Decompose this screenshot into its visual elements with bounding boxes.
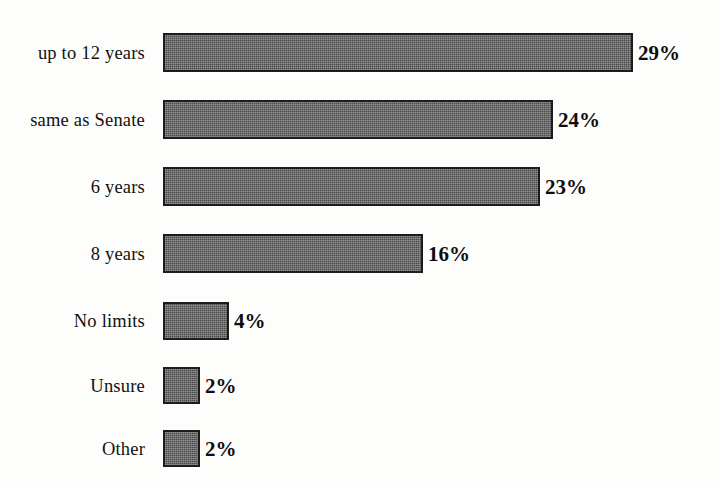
- chart-row: same as Senate 24%: [0, 100, 720, 139]
- row-label: 8 years: [91, 244, 145, 263]
- chart-row: No limits 4%: [0, 302, 720, 340]
- bar-wrapper: 2%: [163, 367, 200, 404]
- bar-wrapper: 29%: [163, 33, 633, 72]
- bar: 29%: [163, 33, 633, 72]
- chart-row: 6 years 23%: [0, 167, 720, 206]
- bar: 16%: [163, 234, 423, 273]
- bar-wrapper: 16%: [163, 234, 423, 273]
- chart-row: up to 12 years 29%: [0, 33, 720, 72]
- row-label: No limits: [74, 312, 145, 331]
- chart-row: Other 2%: [0, 430, 720, 467]
- bar-value-label: 2%: [205, 438, 237, 459]
- row-label: same as Senate: [30, 110, 145, 129]
- bar: 4%: [163, 302, 229, 340]
- bar-value-label: 29%: [638, 42, 680, 63]
- row-label: up to 12 years: [38, 43, 145, 62]
- bar: 2%: [163, 367, 200, 404]
- bar-value-label: 24%: [558, 109, 600, 130]
- chart-row: 8 years 16%: [0, 234, 720, 273]
- bar: 2%: [163, 430, 200, 467]
- bar: 24%: [163, 100, 553, 139]
- row-label: 6 years: [91, 177, 145, 196]
- bar-value-label: 16%: [428, 243, 470, 264]
- bar-chart: up to 12 years 29% same as Senate 24% 6 …: [0, 0, 720, 487]
- bar: 23%: [163, 167, 540, 206]
- bar-wrapper: 4%: [163, 302, 229, 340]
- bar-wrapper: 2%: [163, 430, 200, 467]
- bar-wrapper: 24%: [163, 100, 553, 139]
- bar-value-label: 2%: [205, 375, 237, 396]
- bar-value-label: 23%: [545, 176, 587, 197]
- bar-wrapper: 23%: [163, 167, 540, 206]
- bar-value-label: 4%: [234, 311, 266, 332]
- row-label: Unsure: [90, 376, 145, 395]
- row-label: Other: [102, 439, 145, 458]
- chart-row: Unsure 2%: [0, 367, 720, 404]
